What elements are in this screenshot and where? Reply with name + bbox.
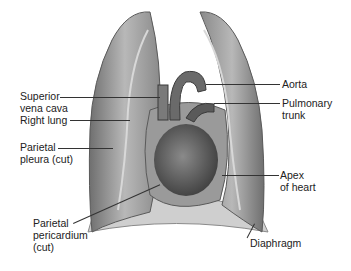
thoracic-anatomy-diagram: Superior vena cava Right lung Parietal p… (0, 0, 351, 271)
label-parietal-pericardium: Parietal pericardium (cut) (33, 217, 88, 253)
leader-superior-vena-cava (60, 97, 160, 98)
leader-pulmonary-trunk (214, 103, 280, 104)
heart-shape (154, 124, 218, 196)
label-superior-vena-cava: Superior vena cava (20, 90, 68, 114)
label-diaphragm: Diaphragm (250, 237, 301, 249)
label-aorta: Aorta (282, 78, 307, 90)
superior-vena-cava-shape (158, 85, 168, 120)
leader-right-lung (70, 120, 130, 121)
label-parietal-pleura: Parietal pleura (cut) (20, 141, 73, 165)
label-apex-of-heart: Apex of heart (280, 169, 316, 193)
leader-aorta (206, 84, 280, 85)
leader-apex-of-heart (222, 175, 279, 176)
label-pulmonary-trunk: Pulmonary trunk (282, 97, 332, 121)
label-right-lung: Right lung (20, 114, 67, 126)
